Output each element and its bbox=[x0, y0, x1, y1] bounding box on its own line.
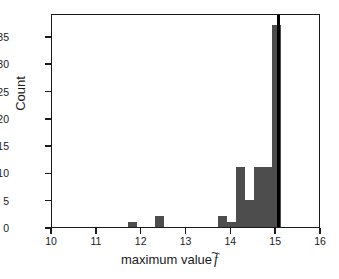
reference-vline bbox=[277, 15, 280, 227]
y-tick-label: 35 bbox=[0, 32, 9, 43]
y-tick-label: 20 bbox=[0, 114, 9, 125]
y-tick-mark bbox=[45, 63, 51, 65]
histogram-bar bbox=[236, 167, 245, 227]
x-tick-label: 10 bbox=[45, 236, 57, 247]
histogram-figure: 05101520253035 Count 10111213141516 maxi… bbox=[0, 0, 339, 279]
x-axis-title-text: maximum value bbox=[121, 252, 212, 267]
x-tick-label: 15 bbox=[269, 236, 281, 247]
histogram-bar bbox=[227, 222, 236, 227]
y-tick-mark bbox=[45, 118, 51, 120]
y-tick-label: 30 bbox=[0, 59, 9, 70]
y-tick-mark bbox=[45, 36, 51, 38]
plot-area bbox=[51, 14, 320, 228]
x-axis-title: maximum value~f bbox=[0, 252, 339, 268]
y-tick-mark bbox=[45, 200, 51, 202]
x-tick-mark bbox=[140, 228, 142, 234]
x-tick-mark bbox=[50, 228, 52, 234]
x-tick-label: 16 bbox=[314, 236, 326, 247]
x-tick-label: 12 bbox=[135, 236, 147, 247]
x-tick-mark bbox=[319, 228, 321, 234]
y-tick-mark bbox=[45, 145, 51, 147]
histogram-bar bbox=[245, 200, 254, 227]
histogram-bar bbox=[254, 167, 263, 227]
histogram-bar bbox=[263, 167, 272, 227]
y-tick-label: 15 bbox=[0, 141, 9, 152]
histogram-bar bbox=[155, 216, 164, 227]
x-tick-label: 11 bbox=[90, 236, 101, 247]
histogram-bar bbox=[218, 216, 227, 227]
x-tick-mark bbox=[95, 228, 97, 234]
x-tick-mark bbox=[185, 228, 187, 234]
y-tick-mark bbox=[45, 173, 51, 175]
y-axis-title: Count bbox=[13, 58, 28, 130]
histogram-bar bbox=[128, 222, 137, 227]
y-tick-mark bbox=[45, 91, 51, 93]
x-tick-label: 14 bbox=[224, 236, 236, 247]
y-tick-label: 5 bbox=[3, 195, 9, 206]
tilde-accent: ~ bbox=[211, 246, 218, 260]
y-tick-label: 25 bbox=[0, 86, 9, 97]
y-tick-label: 10 bbox=[0, 168, 9, 179]
x-axis-symbol: ~f bbox=[212, 252, 218, 267]
x-tick-mark bbox=[230, 228, 232, 234]
x-tick-mark bbox=[274, 228, 276, 234]
x-tick-label: 13 bbox=[180, 236, 192, 247]
